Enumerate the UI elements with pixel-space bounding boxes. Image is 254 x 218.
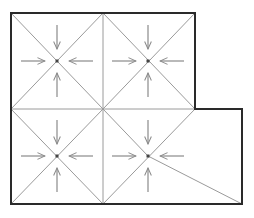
flow-diagram xyxy=(0,0,254,218)
grid-line xyxy=(148,156,242,204)
grid-line xyxy=(103,109,148,156)
center-node xyxy=(147,155,150,158)
center-node xyxy=(56,60,59,63)
center-node xyxy=(147,60,150,63)
center-node xyxy=(56,155,59,158)
